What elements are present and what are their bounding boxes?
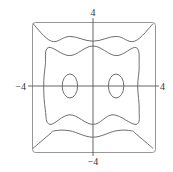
contour-plot: 4 −4 −4 4 <box>0 0 173 172</box>
y-axis-top-label: 4 <box>91 7 96 18</box>
x-axis-right-label: 4 <box>160 81 165 92</box>
x-axis-left-label: −4 <box>15 81 26 92</box>
middle-level-curve <box>44 46 140 124</box>
y-axis-bottom-label: −4 <box>88 156 99 167</box>
